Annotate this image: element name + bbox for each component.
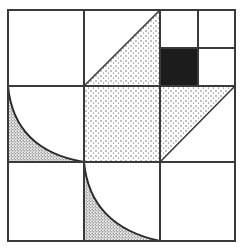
quilt-block-diagram [0,0,244,249]
black-square [160,48,198,86]
stippled-square-center [84,86,160,162]
